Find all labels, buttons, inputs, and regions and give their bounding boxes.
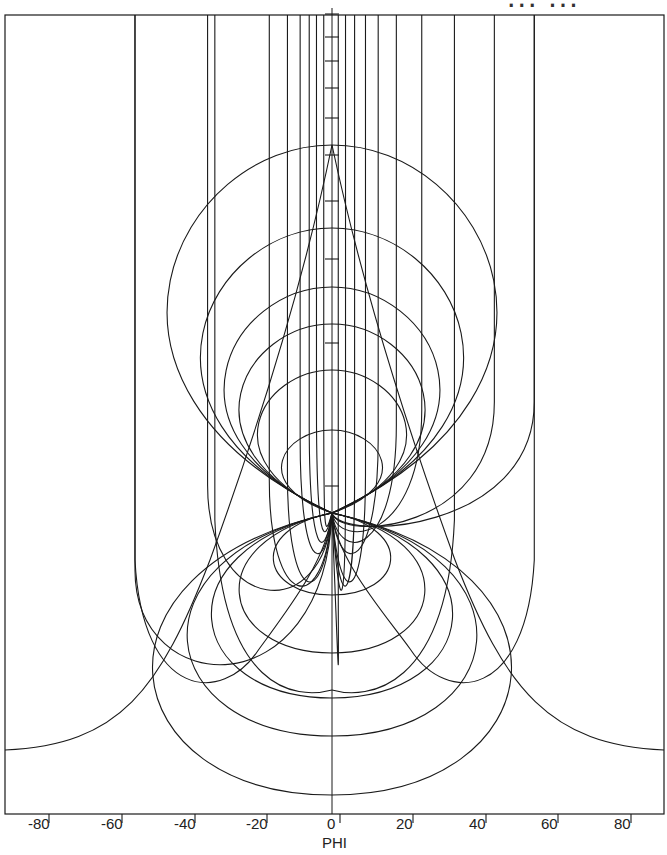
x-tick-label: 60 [541, 815, 558, 832]
outer-curve-right [332, 145, 664, 750]
field-line [332, 15, 355, 586]
field-line [332, 15, 338, 665]
field-lines [135, 15, 534, 683]
field-line [135, 15, 332, 665]
field-line [332, 15, 534, 683]
field-line-plot: -80-60-40-20020406080 PHI [0, 0, 667, 855]
x-tick-label: -60 [101, 815, 123, 832]
outer-curve-left [5, 145, 332, 750]
field-line [309, 15, 332, 542]
x-axis-ticks: -80-60-40-20020406080 [28, 814, 631, 832]
x-axis-label: PHI [322, 834, 347, 851]
side-lobe-left [215, 15, 332, 693]
x-tick-label: 0 [327, 815, 335, 832]
x-tick-label: 40 [469, 815, 486, 832]
outer-curves [5, 15, 664, 750]
field-line [324, 15, 332, 526]
x-tick-label: -80 [28, 815, 50, 832]
field-line [332, 15, 365, 582]
x-tick-label: -20 [246, 815, 268, 832]
side-lobe-right [332, 15, 454, 693]
plot-frame [5, 15, 664, 814]
x-tick-label: 20 [396, 815, 413, 832]
x-tick-label: 80 [614, 815, 631, 832]
x-tick-label: -40 [174, 815, 196, 832]
